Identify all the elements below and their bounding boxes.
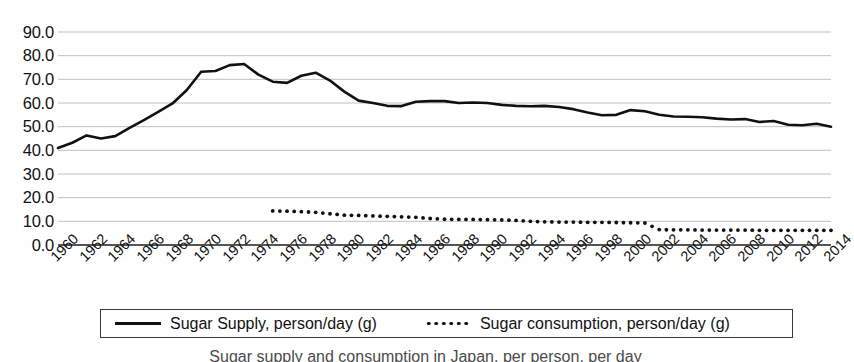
x-axis-tick-label: 1986 xyxy=(420,231,453,264)
x-axis-tick-label: 1982 xyxy=(363,231,396,264)
x-axis-tick-label: 1988 xyxy=(449,231,482,264)
x-axis-tick-label: 1996 xyxy=(563,231,596,264)
x-axis-tick-label: 1966 xyxy=(134,231,167,264)
x-axis-tick-label: 1990 xyxy=(477,231,510,264)
x-axis-tick-label: 1974 xyxy=(248,231,281,264)
x-axis-tick-label: 2014 xyxy=(821,231,854,264)
x-axis-tick-label: 1964 xyxy=(105,231,138,264)
x-axis-tick-label: 1978 xyxy=(306,231,339,264)
x-axis-tick-label: 2006 xyxy=(706,231,739,264)
x-axis-tick-label: 2004 xyxy=(678,231,711,264)
legend-label-sugar-supply: Sugar Supply, person/day (g) xyxy=(170,316,377,332)
x-axis-tick-label: 2010 xyxy=(764,231,797,264)
dotted-line-swatch-icon xyxy=(425,321,471,326)
x-axis-tick-label: 1962 xyxy=(77,231,110,264)
x-axis-tick-label: 1970 xyxy=(191,231,224,264)
x-axis-tick-label: 1994 xyxy=(535,231,568,264)
x-axis-tick-label: 1960 xyxy=(48,231,81,264)
figure-caption: Sugar supply and consumption in Japan, p… xyxy=(0,349,851,362)
x-axis-tick-label: 1972 xyxy=(220,231,253,264)
legend-item-sugar-consumption: Sugar consumption, person/day (g) xyxy=(425,316,730,332)
x-axis-tick-label: 2000 xyxy=(621,231,654,264)
x-axis-tick-label: 1980 xyxy=(334,231,367,264)
chart-legend: Sugar Supply, person/day (g) Sugar consu… xyxy=(100,309,793,338)
x-axis-tick-label: 1998 xyxy=(592,231,625,264)
x-axis-tick-label: 2002 xyxy=(649,231,682,264)
x-axis-tick-label: 2012 xyxy=(792,231,825,264)
x-axis-tick-label: 1992 xyxy=(506,231,539,264)
x-axis-tick-label: 1968 xyxy=(163,231,196,264)
x-axis-tick-label: 2008 xyxy=(735,231,768,264)
legend-item-sugar-supply: Sugar Supply, person/day (g) xyxy=(115,316,377,332)
legend-label-sugar-consumption: Sugar consumption, person/day (g) xyxy=(480,316,730,332)
x-axis-tick-label: 1976 xyxy=(277,231,310,264)
x-axis-tick-label: 1984 xyxy=(392,231,425,264)
solid-line-swatch-icon xyxy=(115,322,161,325)
